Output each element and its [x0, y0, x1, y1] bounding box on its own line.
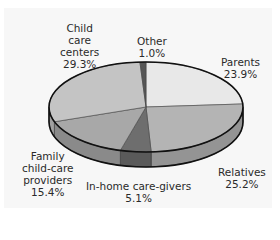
label-relatives: Relatives 25.2% [218, 166, 266, 190]
label-parents: Parents 23.9% [221, 56, 260, 80]
label-family-child-care-providers: Family child-care providers 15.4% [22, 150, 73, 198]
label-other: Other 1.0% [137, 35, 167, 59]
label-child-care-centers: Child care centers 29.3% [60, 22, 99, 70]
label-in-home-care-givers: In-home care-givers 5.1% [86, 180, 191, 204]
slice-side-in-home-care-givers [120, 150, 151, 167]
